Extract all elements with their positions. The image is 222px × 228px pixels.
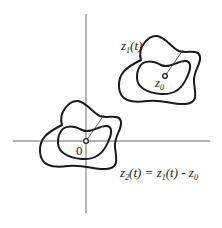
complex-plane-diagram: z1(t) z0 0 z2(t) = z1(t) - z0 [0,0,222,228]
z2-equation-label: z2(t) = z1(t) - z0 [119,165,198,182]
origin-label: 0 [76,143,83,158]
origin-point [84,139,89,144]
z2-radius-line [86,115,104,141]
z1-radius-line [165,50,183,76]
z0-point [163,74,168,79]
z2-curve-group [40,101,121,169]
z1-label: z1(t) [120,38,142,55]
